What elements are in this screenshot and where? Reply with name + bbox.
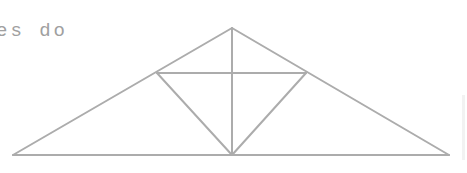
truss-member-left_mid-center_base [157, 73, 232, 155]
edge-artifact [462, 95, 465, 160]
truss-member-apex-right_base [232, 28, 449, 155]
truss-diagram [0, 0, 467, 173]
truss-member-right_mid-center_base [232, 73, 306, 155]
truss-member-left_base-apex [13, 28, 232, 155]
